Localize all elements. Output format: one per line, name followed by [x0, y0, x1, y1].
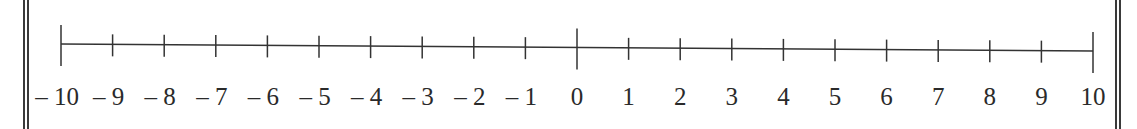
tick-label: 9 — [1035, 83, 1048, 110]
tick-label: 10 — [1081, 83, 1106, 110]
tick-label: 1 — [622, 83, 635, 110]
tick-label: – 5 — [298, 83, 330, 110]
tick-label: 2 — [674, 83, 687, 110]
tick-label: 0 — [571, 83, 584, 110]
tick-label: – 6 — [247, 83, 279, 110]
tick-label: – 1 — [505, 83, 537, 110]
tick-label: – 10 — [34, 83, 79, 110]
tick-label: – 9 — [92, 83, 124, 110]
tick-label: 6 — [880, 83, 893, 110]
number-line: – 10– 9– 8– 7– 6– 5– 4– 3– 2– 1012345678… — [0, 0, 1137, 129]
tick-label: 7 — [932, 83, 945, 110]
tick-label: – 7 — [195, 83, 227, 110]
tick-label: – 4 — [350, 83, 383, 110]
tick-label: 5 — [829, 83, 842, 110]
tick-label: – 3 — [402, 83, 434, 110]
tick-label: 8 — [984, 83, 997, 110]
tick-label: 4 — [777, 83, 790, 110]
tick-label: – 2 — [453, 83, 485, 110]
tick-label: – 8 — [144, 83, 176, 110]
tick-label: 3 — [726, 83, 739, 110]
